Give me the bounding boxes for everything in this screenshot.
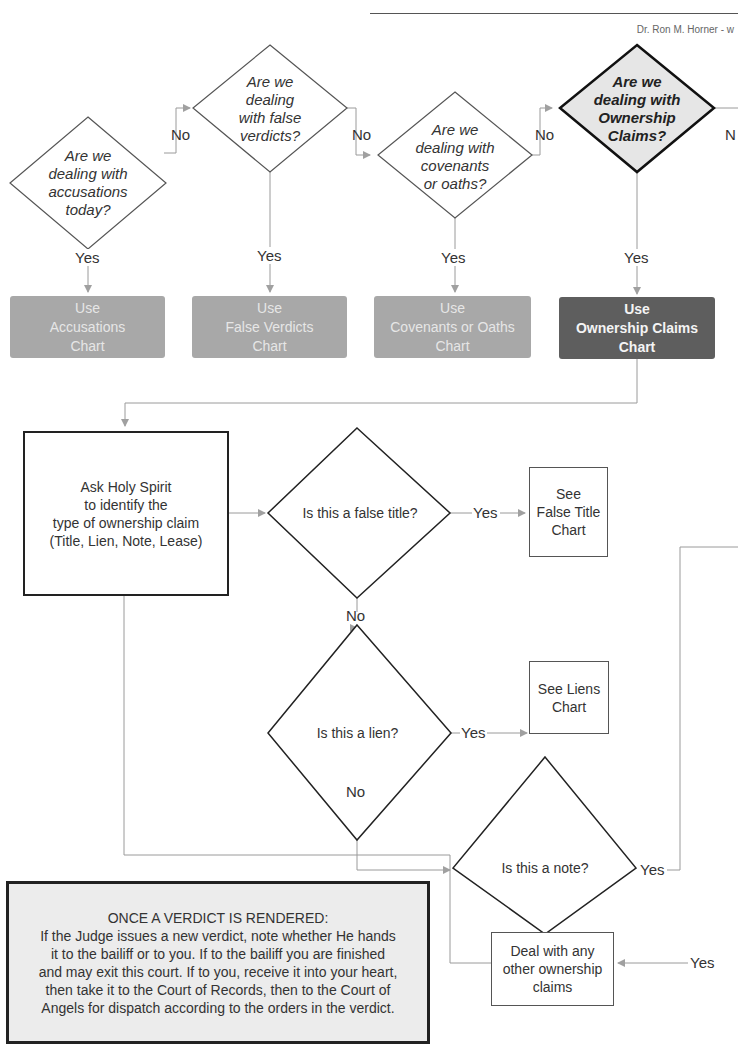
box-line: Use <box>390 299 515 318</box>
box-line: (Title, Lien, Note, Lease) <box>50 532 203 550</box>
box-line: Use <box>226 299 314 318</box>
use-covenants-chart-box[interactable]: Use Covenants or Oaths Chart <box>374 296 531 358</box>
decision-lien: Is this a lien? <box>295 723 420 743</box>
box-line: False Verdicts <box>226 318 314 337</box>
question-covenants: Are we dealing with covenants or oaths? <box>407 114 503 200</box>
box-line: Ask Holy Spirit <box>50 478 203 496</box>
box-line: type of ownership claim <box>50 514 203 532</box>
question-false-verdicts: Are we dealing with false verdicts? <box>222 66 318 152</box>
verdict-line: If the Judge issues a new verdict, note … <box>39 927 398 945</box>
q-line: Ownership <box>594 109 681 127</box>
box-line: See <box>537 485 601 503</box>
verdict-line: Angels for dispatch according to the ord… <box>39 999 398 1017</box>
box-line: Ownership Claims <box>576 319 698 338</box>
decision-note: Is this a note? <box>485 858 605 878</box>
box-line: Use <box>576 300 698 319</box>
q-line: Are we <box>48 147 127 165</box>
box-line: to identify the <box>50 496 203 514</box>
q-line: with false <box>239 109 302 127</box>
verdict-line: then take it to the Court of Records, th… <box>39 981 398 999</box>
box-line: Deal with any <box>503 942 603 960</box>
use-accusations-chart-box[interactable]: Use Accusations Chart <box>10 296 165 358</box>
q-line: accusations <box>48 183 127 201</box>
verdict-line: it to the bailiff or to you. If to the b… <box>39 945 398 963</box>
q-line: dealing with <box>48 165 127 183</box>
q-line: Are we <box>239 73 302 91</box>
yes-label-q1: Yes <box>75 249 99 266</box>
box-line: False Title <box>537 503 601 521</box>
q-line: dealing <box>239 91 302 109</box>
verdict-note-box: ONCE A VERDICT IS RENDERED: If the Judge… <box>6 881 430 1044</box>
yes-label-q4: Yes <box>624 249 648 266</box>
yes-label-q2: Yes <box>257 247 281 264</box>
deal-other-claims-box: Deal with any other ownership claims <box>491 932 614 1006</box>
yes-label-other-claims: Yes <box>690 954 714 971</box>
box-line: Covenants or Oaths <box>390 318 515 337</box>
decision-false-title: Is this a false title? <box>285 503 435 523</box>
box-line: Chart <box>50 337 125 356</box>
box-line: Chart <box>226 337 314 356</box>
see-false-title-chart-box[interactable]: See False Title Chart <box>529 467 608 557</box>
q-line: Are we <box>415 121 494 139</box>
see-liens-chart-box[interactable]: See Liens Chart <box>529 661 609 734</box>
no-label-q1: No <box>171 126 190 143</box>
q-line: Are we <box>594 73 681 91</box>
box-line: Use <box>50 299 125 318</box>
use-false-verdicts-chart-box[interactable]: Use False Verdicts Chart <box>192 296 347 358</box>
q-line: Claims? <box>594 127 681 145</box>
no-label-lien: No <box>346 783 365 800</box>
yes-label-note: Yes <box>640 861 664 878</box>
verdict-line: and may exit this court. If to you, rece… <box>39 963 398 981</box>
question-ownership-claims: Are we dealing with Ownership Claims? <box>587 66 687 152</box>
box-line: claims <box>503 978 603 996</box>
q-line: verdicts? <box>239 127 302 145</box>
verdict-title: ONCE A VERDICT IS RENDERED: <box>39 909 398 927</box>
box-line: Chart <box>538 698 600 716</box>
box-line: Chart <box>390 337 515 356</box>
box-line: Accusations <box>50 318 125 337</box>
no-label-false-title: No <box>346 607 365 624</box>
no-label-q4: N <box>725 126 736 143</box>
use-ownership-claims-chart-box[interactable]: Use Ownership Claims Chart <box>559 297 715 359</box>
box-line: See Liens <box>538 680 600 698</box>
ask-holy-spirit-box: Ask Holy Spirit to identify the type of … <box>23 431 229 596</box>
q-line: dealing with <box>415 139 494 157</box>
box-line: Chart <box>537 521 601 539</box>
question-accusations: Are we dealing with accusations today? <box>40 140 136 226</box>
no-label-q3: No <box>535 126 554 143</box>
diamond-note <box>453 757 636 934</box>
q-line: dealing with <box>594 91 681 109</box>
box-line: Chart <box>576 338 698 357</box>
yes-label-q3: Yes <box>441 249 465 266</box>
box-line: other ownership <box>503 960 603 978</box>
q-line: or oaths? <box>415 175 494 193</box>
yes-label-lien: Yes <box>461 724 485 741</box>
q-line: covenants <box>415 157 494 175</box>
q-line: today? <box>48 201 127 219</box>
no-label-q2: No <box>352 126 371 143</box>
yes-label-false-title: Yes <box>473 504 497 521</box>
